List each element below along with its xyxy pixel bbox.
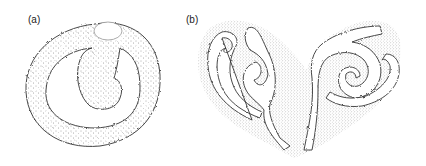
panel-b-drawing [198,21,401,158]
panel-a-label: (a) [28,14,40,25]
panel-b-label: (b) [186,14,198,25]
figure-canvas [0,0,426,166]
outer-ring [26,23,160,147]
oval-clear-region [94,22,122,40]
panel-a-drawing [26,22,160,146]
